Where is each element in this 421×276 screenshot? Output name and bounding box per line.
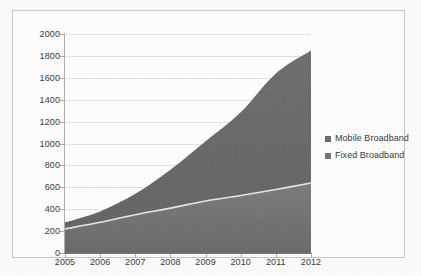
plot-area xyxy=(65,34,311,253)
y-tick-label: 1200 xyxy=(18,118,60,127)
y-tick-label: 1000 xyxy=(18,140,60,149)
x-axis-line xyxy=(64,253,312,254)
chart-legend: Mobile BroadbandFixed Broadband xyxy=(325,133,417,167)
chart-frame: 0200400600800100012001400160018002000 xyxy=(12,10,405,258)
legend-swatch-icon xyxy=(325,136,331,142)
x-tick-label: 2008 xyxy=(150,258,190,267)
x-tick-label: 2012 xyxy=(291,258,331,267)
legend-label: Mobile Broadband xyxy=(335,133,409,144)
y-tick-label: 2000 xyxy=(18,30,60,39)
y-tick-label: 1800 xyxy=(18,52,60,61)
x-tick-label: 2010 xyxy=(221,258,261,267)
y-tick-label: 1400 xyxy=(18,96,60,105)
y-axis-tick-labels: 0200400600800100012001400160018002000 xyxy=(13,11,60,276)
y-tick-label: 400 xyxy=(18,205,60,214)
x-tick-label: 2006 xyxy=(80,258,120,267)
y-tick-label: 1600 xyxy=(18,74,60,83)
y-tick-label: 200 xyxy=(18,227,60,236)
legend-entry[interactable]: Mobile Broadband xyxy=(325,133,417,144)
x-tick-label: 2011 xyxy=(256,258,296,267)
y-tick-label: 0 xyxy=(18,249,60,258)
chart-figure: 0200400600800100012001400160018002000 xyxy=(0,0,421,276)
y-tick-label: 600 xyxy=(18,183,60,192)
legend-label: Fixed Broadband xyxy=(335,150,404,161)
x-tick-label: 2007 xyxy=(115,258,155,267)
legend-swatch-icon xyxy=(325,153,331,159)
stacked-area-series xyxy=(65,34,311,253)
y-tick-label: 800 xyxy=(18,161,60,170)
x-tick-label: 2005 xyxy=(45,258,85,267)
x-tick-label: 2009 xyxy=(186,258,226,267)
legend-entry[interactable]: Fixed Broadband xyxy=(325,150,417,161)
